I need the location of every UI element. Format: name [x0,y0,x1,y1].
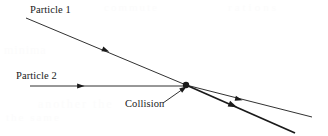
particle-1-outgoing-trajectory-arrow-icon [235,96,243,101]
particle-collision-figure: commute rations minima another the the s… [0,0,328,136]
particle-1-label: Particle 1 [30,5,71,16]
particle-1-incoming-trajectory-arrow-icon [101,47,109,52]
trajectory-canvas [0,0,328,136]
collision-point-group [183,82,189,88]
trajectory-lines-group [26,18,312,133]
collision-point-marker-icon [183,82,189,88]
collision-label: Collision [125,99,164,110]
collision-pointer-leader-line-line [163,89,183,103]
particle-2-incoming-trajectory-arrow-icon [77,83,85,88]
particle-2-label: Particle 2 [16,71,57,82]
particle-2-outgoing-trajectory-line [186,85,295,133]
particle-2-outgoing-trajectory-arrow-icon [228,101,237,107]
